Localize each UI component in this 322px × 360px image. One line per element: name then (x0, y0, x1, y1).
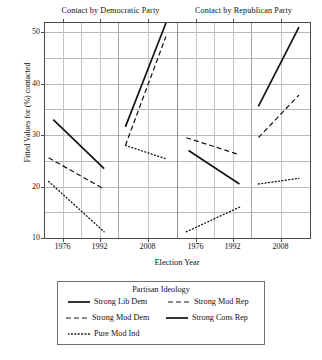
data-line-strong-lib-dem (53, 120, 104, 169)
legend-key-dashed-icon (66, 314, 88, 322)
x-tick-label: 1976 (43, 242, 83, 251)
right-axis-line (310, 22, 311, 239)
legend: Partisan Ideology Strong Lib DemStrong M… (57, 281, 265, 345)
y-tick-label: 10 (0, 233, 40, 242)
data-line-strong-mod-dem (125, 36, 166, 145)
legend-label: Strong Mod Dem (92, 313, 149, 322)
legend-item-strong-mod-rep[interactable]: Strong Mod Rep (168, 297, 249, 306)
data-line-strong-cons-rep (189, 151, 240, 184)
y-tick-label: 50 (0, 27, 40, 36)
legend-item-strong-mod-dem[interactable]: Strong Mod Dem (66, 313, 149, 322)
x-tick-label: 1992 (213, 242, 253, 251)
legend-label: Strong Cons Rep (192, 313, 248, 322)
x-tick-label: 2008 (261, 242, 301, 251)
data-line-strong-mod-dem (49, 158, 105, 189)
legend-label: Pure Mod Ind (94, 329, 139, 338)
data-line-pure-mod-ind (258, 178, 299, 184)
x-tick-label: 2008 (128, 242, 168, 251)
legend-key-solid-icon (166, 314, 188, 322)
data-line-strong-lib-dem (125, 23, 166, 127)
legend-label: Strong Lib Dem (94, 297, 147, 306)
legend-key-dotted-icon (68, 330, 90, 338)
x-tick-mark (63, 238, 64, 242)
x-tick-mark (148, 238, 149, 242)
data-line-pure-mod-ind (49, 181, 105, 231)
legend-item-strong-cons-rep[interactable]: Strong Cons Rep (166, 313, 248, 322)
x-tick-label: 1976 (176, 242, 216, 251)
data-line-strong-mod-rep (258, 95, 299, 138)
chart-container: Contact by Democratic Party Contact by R… (0, 0, 322, 360)
data-line-pure-mod-ind (186, 206, 242, 232)
legend-key-dashed-icon (168, 298, 190, 306)
y-axis-title: Fitted Values for (%) contacted (23, 23, 32, 203)
x-tick-mark (100, 238, 101, 242)
x-tick-mark (233, 238, 234, 242)
legend-item-strong-lib-dem[interactable]: Strong Lib Dem (68, 297, 147, 306)
data-line-strong-cons-rep (258, 27, 299, 106)
data-line-strong-mod-rep (186, 138, 239, 155)
y-tick-label: 30 (0, 130, 40, 139)
y-tick-label: 40 (0, 79, 40, 88)
x-tick-mark (196, 238, 197, 242)
panel-header-democratic: Contact by Democratic Party (44, 6, 177, 15)
panel-header-republican: Contact by Republican Party (177, 6, 310, 15)
y-tick-mark (41, 238, 45, 239)
y-tick-label: 20 (0, 182, 40, 191)
x-tick-label: 1992 (80, 242, 120, 251)
x-axis-line (44, 238, 311, 239)
x-tick-mark (281, 238, 282, 242)
x-axis-title: Election Year (44, 258, 310, 267)
data-series-layer (44, 22, 310, 238)
legend-item-pure-mod-ind[interactable]: Pure Mod Ind (68, 329, 139, 338)
data-line-pure-mod-ind (125, 145, 166, 158)
legend-key-solid-icon (68, 298, 90, 306)
legend-title: Partisan Ideology (58, 285, 264, 294)
legend-label: Strong Mod Rep (194, 297, 249, 306)
